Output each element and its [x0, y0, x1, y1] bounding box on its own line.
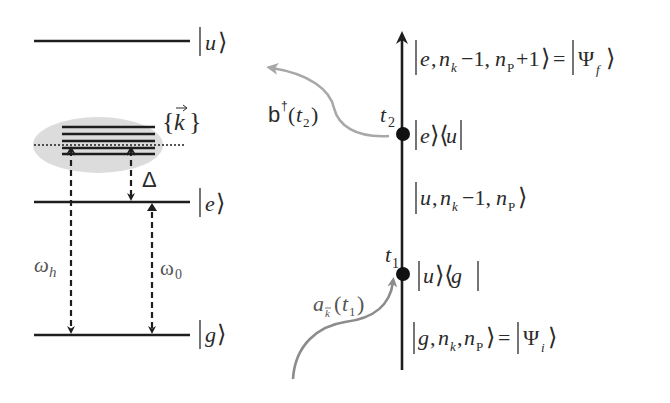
- svg-text:⟩: ⟩: [218, 29, 227, 55]
- svg-text:1: 1: [349, 304, 356, 319]
- svg-text:}: }: [189, 107, 201, 136]
- vertex-t1-operator: u ⟩⟨ g: [419, 261, 478, 291]
- svg-text:k: k: [452, 199, 458, 214]
- svg-text:t: t: [296, 102, 303, 127]
- svg-text:=: =: [553, 46, 565, 71]
- svg-text:{: {: [162, 107, 174, 136]
- two-photon-process-diagram: u ⟩ { k } e ⟩: [0, 0, 670, 403]
- svg-text:k: k: [450, 339, 456, 354]
- svg-text:+1: +1: [516, 46, 539, 71]
- svg-text:b: b: [268, 102, 280, 127]
- svg-text:,: ,: [457, 325, 463, 350]
- svg-text:⟩: ⟩: [518, 184, 527, 210]
- vertex-t2-time-label: t 2: [380, 102, 395, 130]
- svg-text:n: n: [496, 185, 507, 210]
- svg-text:⟩: ⟩: [486, 324, 495, 350]
- energy-level-diagram: u ⟩ { k } e ⟩: [33, 27, 227, 349]
- svg-text:e: e: [420, 123, 430, 148]
- svg-text:(: (: [334, 291, 341, 316]
- svg-text:⟩: ⟩: [548, 324, 557, 350]
- svg-text:u: u: [423, 263, 434, 288]
- svg-text:1: 1: [392, 256, 399, 271]
- svg-text:k: k: [325, 307, 331, 319]
- svg-text:u: u: [420, 185, 431, 210]
- svg-text:ω: ω: [160, 256, 174, 280]
- svg-text:Ψ: Ψ: [523, 325, 540, 350]
- svg-text:=: =: [498, 325, 510, 350]
- time-evolution-diagram: e , n k −1, n P +1 ⟩ = Ψ f ⟩ t 2 e ⟩⟨ u: [268, 31, 615, 379]
- svg-text:g: g: [418, 325, 429, 350]
- svg-text:−1,: −1,: [462, 185, 491, 210]
- svg-text:g: g: [205, 322, 216, 347]
- vertex-t2-operator: e ⟩⟨ u: [416, 120, 461, 150]
- svg-text:⟩: ⟩: [606, 45, 615, 71]
- svg-text:†: †: [281, 99, 288, 113]
- svg-text:P: P: [476, 339, 483, 354]
- svg-text:,: ,: [431, 46, 437, 71]
- svg-text:k: k: [174, 109, 185, 135]
- svg-text:n: n: [464, 325, 475, 350]
- svg-text:2: 2: [303, 115, 310, 130]
- svg-text:n: n: [495, 46, 506, 71]
- svg-text:t: t: [385, 242, 392, 267]
- svg-text:): ): [311, 102, 318, 127]
- svg-text:⟩: ⟩: [217, 321, 226, 347]
- svg-text:n: n: [439, 46, 450, 71]
- detuning-label: Δ: [142, 167, 157, 192]
- svg-text:t: t: [342, 291, 349, 316]
- svg-text:h: h: [49, 264, 57, 280]
- svg-text:2: 2: [388, 115, 395, 130]
- omega-0-label: ω 0: [160, 256, 182, 282]
- svg-text:0: 0: [175, 267, 182, 282]
- initial-state-label: g , n k , n P ⟩ = Ψ i ⟩: [414, 322, 557, 355]
- level-g-label: g ⟩: [200, 320, 226, 349]
- omega-h-label: ω h: [34, 253, 57, 280]
- svg-text:k: k: [451, 60, 457, 75]
- svg-text:P: P: [507, 60, 514, 75]
- svg-text:n: n: [440, 185, 451, 210]
- svg-text:(: (: [288, 102, 295, 127]
- svg-text:e: e: [420, 46, 430, 71]
- svg-text:⟩: ⟩: [216, 190, 225, 216]
- svg-text:): ): [357, 291, 364, 316]
- svg-text:−1,: −1,: [461, 46, 490, 71]
- final-state-label: e , n k −1, n P +1 ⟩ = Ψ f ⟩: [416, 40, 615, 77]
- omega-0-arrow: [147, 203, 157, 330]
- omega-h-arrow: [67, 148, 75, 330]
- svg-text:u: u: [446, 123, 457, 148]
- svg-text:f: f: [596, 62, 602, 77]
- vertex-t1-time-label: t 1: [385, 242, 399, 271]
- svg-text:P: P: [508, 199, 515, 214]
- svg-text:,: ,: [432, 185, 438, 210]
- svg-text:ω: ω: [34, 253, 49, 277]
- level-e-label: e ⟩: [200, 188, 225, 217]
- level-u-label: u ⟩: [200, 27, 227, 56]
- svg-text:,: ,: [430, 325, 436, 350]
- intermediate-state-label: u , n k −1, n P ⟩: [416, 182, 527, 214]
- emission-operator-label: b † ( t 2 ): [268, 99, 318, 130]
- svg-text:g: g: [451, 263, 462, 288]
- vertex-t2-dot: [396, 127, 410, 141]
- continuum-label: { k }: [162, 105, 201, 136]
- svg-text:t: t: [380, 102, 387, 127]
- svg-text:Ψ: Ψ: [578, 46, 595, 71]
- absorption-operator-label: a k ( t 1 ): [313, 291, 364, 319]
- svg-text:u: u: [205, 30, 216, 55]
- svg-text:e: e: [205, 191, 215, 216]
- svg-text:n: n: [438, 325, 449, 350]
- svg-text:i: i: [541, 340, 545, 355]
- svg-text:a: a: [313, 291, 324, 316]
- svg-text:⟩: ⟩: [541, 45, 550, 71]
